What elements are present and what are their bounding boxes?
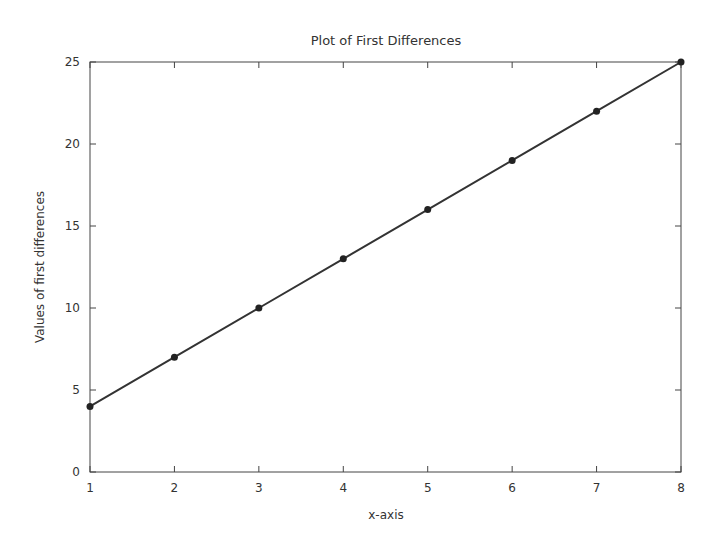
x-tick-label: 6 — [508, 481, 516, 495]
x-tick-label: 8 — [677, 481, 685, 495]
x-tick-label: 1 — [86, 481, 94, 495]
y-tick-label: 25 — [65, 55, 80, 69]
x-tick-label: 3 — [255, 481, 263, 495]
data-point — [509, 157, 516, 164]
data-point — [340, 255, 347, 262]
x-tick-label: 7 — [593, 481, 601, 495]
y-tick-label: 5 — [72, 383, 80, 397]
y-tick-label: 20 — [65, 137, 80, 151]
data-point — [87, 403, 94, 410]
y-tick-label: 0 — [72, 465, 80, 479]
y-axis-ticks: 0510152025 — [65, 55, 681, 479]
y-axis-label: Values of first differences — [33, 191, 47, 343]
x-axis-ticks: 12345678 — [86, 62, 685, 495]
x-tick-label: 5 — [424, 481, 432, 495]
data-point — [255, 305, 262, 312]
y-tick-label: 10 — [65, 301, 80, 315]
data-line — [90, 62, 681, 406]
data-point — [678, 59, 685, 66]
data-point — [171, 354, 178, 361]
x-tick-label: 2 — [171, 481, 179, 495]
y-tick-label: 15 — [65, 219, 80, 233]
data-point — [593, 108, 600, 115]
x-tick-label: 4 — [339, 481, 347, 495]
chart-title: Plot of First Differences — [311, 33, 462, 48]
x-axis-label: x-axis — [368, 508, 403, 522]
data-point — [424, 206, 431, 213]
chart: Plot of First Differences 12345678 05101… — [0, 0, 722, 544]
plot-frame — [90, 62, 681, 472]
